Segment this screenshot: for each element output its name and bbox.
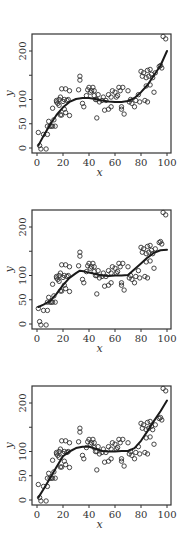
data-point — [145, 420, 149, 424]
data-point — [152, 266, 156, 270]
y-tick-label: 200 — [17, 217, 28, 236]
x-tick-label: 20 — [57, 157, 70, 168]
data-point — [122, 112, 126, 116]
data-point — [126, 441, 130, 445]
y-axis-label: y — [3, 266, 16, 274]
plot-frame — [32, 34, 171, 153]
x-tick-label: 20 — [57, 509, 70, 520]
x-tick-label: 80 — [135, 509, 148, 520]
data-point — [67, 89, 71, 93]
x-tick-label: 0 — [34, 157, 40, 168]
panel-c: 020406080100050100200xy(c) — [0, 352, 188, 532]
data-point — [76, 88, 80, 92]
x-tick-label: 80 — [135, 157, 148, 168]
x-tick-label: 20 — [57, 333, 70, 344]
data-point — [36, 482, 40, 486]
y-tick-label: 200 — [17, 393, 28, 412]
data-point — [138, 276, 142, 280]
y-tick-label: 50 — [17, 293, 28, 306]
data-point — [136, 268, 140, 272]
data-point — [67, 465, 71, 469]
x-tick-label: 100 — [157, 333, 176, 344]
y-tick-label: 200 — [17, 41, 28, 60]
data-point — [76, 264, 80, 268]
data-point — [67, 441, 71, 445]
data-point — [152, 442, 156, 446]
y-tick-label: 100 — [17, 266, 28, 285]
scatter-plot-b: 020406080100050100200xy(b) — [0, 176, 188, 356]
x-tick-label: 40 — [83, 333, 96, 344]
data-point — [67, 265, 71, 269]
data-point — [50, 106, 54, 110]
data-point — [126, 89, 130, 93]
plot-frame — [32, 386, 171, 505]
data-point — [67, 113, 71, 117]
data-point — [44, 499, 48, 503]
data-point — [153, 423, 157, 427]
data-point — [95, 468, 99, 472]
data-point — [132, 281, 136, 285]
x-tick-label: 100 — [157, 509, 176, 520]
data-point — [152, 90, 156, 94]
data-point — [50, 282, 54, 286]
x-tick-label: 0 — [34, 333, 40, 344]
panel-b: 020406080100050100200xy(b) — [0, 176, 188, 356]
y-tick-label: 0 — [17, 145, 28, 151]
y-axis-label: y — [3, 90, 16, 98]
x-axis-label: x — [96, 518, 103, 531]
x-tick-label: 80 — [135, 333, 148, 344]
y-tick-label: 50 — [17, 469, 28, 482]
data-point — [148, 67, 152, 71]
data-point — [153, 247, 157, 251]
x-tick-label: 60 — [109, 333, 122, 344]
data-point — [138, 100, 142, 104]
scatter-points — [36, 210, 168, 327]
data-point — [148, 243, 152, 247]
data-point — [126, 265, 130, 269]
data-point — [36, 130, 40, 134]
data-point — [44, 323, 48, 327]
data-point — [95, 292, 99, 296]
scatter-points — [36, 34, 168, 151]
x-tick-label: 60 — [109, 157, 122, 168]
plot-frame — [32, 210, 171, 329]
y-tick-label: 100 — [17, 90, 28, 109]
x-tick-label: 60 — [109, 509, 122, 520]
x-tick-label: 40 — [83, 509, 96, 520]
data-point — [76, 440, 80, 444]
x-tick-label: 0 — [34, 509, 40, 520]
scatter-plot-a: 020406080100050100200xy(a) — [0, 0, 188, 180]
fit-curve — [38, 401, 167, 498]
y-axis-label: y — [3, 442, 16, 450]
data-point — [47, 295, 51, 299]
y-tick-label: 50 — [17, 117, 28, 130]
data-point — [44, 147, 48, 151]
data-point — [50, 458, 54, 462]
scatter-plot-c: 020406080100050100200xy(c) — [0, 352, 188, 532]
data-point — [47, 471, 51, 475]
x-tick-label: 100 — [157, 157, 176, 168]
y-tick-label: 100 — [17, 442, 28, 461]
data-point — [145, 244, 149, 248]
data-point — [138, 452, 142, 456]
data-point — [122, 464, 126, 468]
scatter-points — [36, 386, 168, 503]
data-point — [122, 288, 126, 292]
data-point — [145, 68, 149, 72]
data-point — [132, 105, 136, 109]
data-point — [95, 116, 99, 120]
y-tick-label: 0 — [17, 497, 28, 503]
data-point — [132, 457, 136, 461]
panel-a: 020406080100050100200xy(a) — [0, 0, 188, 180]
x-tick-label: 40 — [83, 157, 96, 168]
data-point — [67, 289, 71, 293]
y-tick-label: 0 — [17, 321, 28, 327]
